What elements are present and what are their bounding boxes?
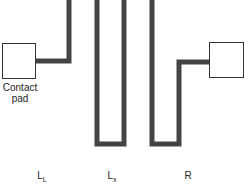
contact-pad-label: Contact pad — [0, 82, 40, 104]
meander-trace-lx — [97, 0, 124, 144]
left-contact-pad — [3, 44, 36, 79]
contact-pad-label-line2: pad — [0, 93, 40, 104]
right-contact-pad — [210, 43, 244, 78]
component-label-r: R — [176, 170, 200, 181]
meander-trace-r — [152, 0, 209, 144]
component-label-lx: Lx — [100, 170, 124, 181]
contact-pad-label-line1: Contact — [0, 82, 40, 93]
left-trace — [36, 0, 69, 61]
component-label-ll: LL — [30, 170, 54, 181]
